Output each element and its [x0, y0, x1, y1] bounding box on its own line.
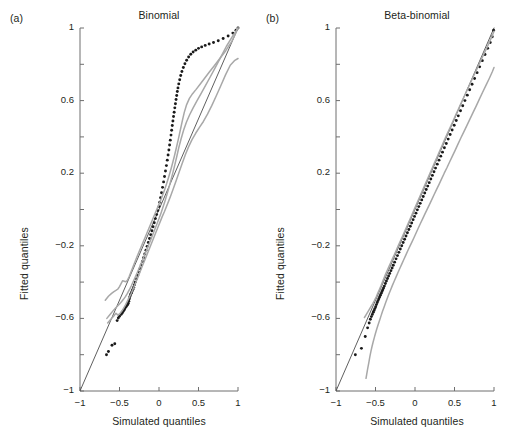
- y-tick-label: −0.2: [296, 239, 330, 250]
- envelope-mid: [107, 28, 238, 318]
- envelope-lower: [366, 68, 494, 379]
- x-tick-label: −1: [316, 397, 356, 408]
- x-tick-label: 0.5: [179, 397, 219, 408]
- y-tick-label: 0.6: [40, 94, 74, 105]
- x-tick-label: 0.5: [435, 397, 475, 408]
- x-tick-label: 0: [395, 397, 435, 408]
- reference-line: [80, 28, 238, 391]
- qq-plot-figure: (a) Binomial Fitted quantiles Simulated …: [0, 0, 512, 438]
- x-tick-label: 0: [139, 397, 179, 408]
- y-tick-label: 0.6: [296, 94, 330, 105]
- x-tick-label: −0.5: [356, 397, 396, 408]
- panel-b-plot-area: [256, 0, 512, 438]
- x-tick-label: −0.5: [100, 397, 140, 408]
- y-tick-label: 1: [296, 21, 330, 32]
- panel-a-plot-area: [0, 0, 256, 438]
- panel-binomial: (a) Binomial Fitted quantiles Simulated …: [0, 0, 256, 438]
- x-tick-label: 1: [218, 397, 258, 408]
- y-tick-label: 0.2: [40, 166, 74, 177]
- y-tick-label: −1: [40, 384, 74, 395]
- panel-beta-binomial: (b) Beta-binomial Fitted quantiles Simul…: [256, 0, 512, 438]
- x-tick-label: −1: [60, 397, 100, 408]
- y-tick-label: −0.2: [40, 239, 74, 250]
- y-tick-label: 0.2: [296, 166, 330, 177]
- y-tick-label: 1: [40, 21, 74, 32]
- y-tick-label: −1: [296, 384, 330, 395]
- y-tick-label: −0.6: [40, 311, 74, 322]
- envelope-upper: [105, 28, 238, 300]
- envelope-upper: [364, 31, 494, 317]
- y-tick-label: −0.6: [296, 311, 330, 322]
- data-point-group: [354, 29, 495, 356]
- x-tick-label: 1: [474, 397, 512, 408]
